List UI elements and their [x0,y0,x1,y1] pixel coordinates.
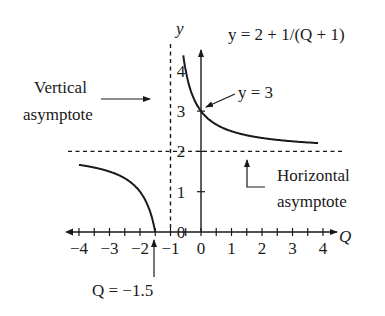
horizontal-asymptote-label: Horizontal [277,166,350,185]
x-axis-label: Q [339,227,351,246]
horizontal-asymptote-label-2: asymptote [277,192,347,211]
y-tick-label: 1 [177,183,186,202]
vertical-asymptote-label-2: asymptote [23,105,93,124]
x-axis-left-arrow-icon [65,229,73,236]
x-tick-label: −3 [100,239,118,258]
x-tick-label: 1 [227,239,236,258]
y-tick-label: 0 [177,223,186,242]
y-tick-label: 2 [177,142,186,161]
x-tick-label: 4 [319,239,328,258]
function-graph: −4−3−2−101234 01234 y Q y = 2 + 1/(Q + 1… [0,0,385,316]
y-axis: 01234 [177,50,205,242]
x-tick-label: 0 [197,239,206,258]
y-tick-label: 3 [177,102,186,121]
y-intercept-label: y = 3 [238,83,273,102]
horizontal-asymptote-pointer [247,160,265,187]
x-tick-label: −2 [131,239,149,258]
x-tick-label: 2 [258,239,267,258]
x-tick-label: 3 [288,239,297,258]
vertical-asymptote-label: Vertical [34,78,87,97]
y-axis-label: y [174,19,184,38]
curve-left-branch [79,165,155,232]
y-intercept-pointer [206,94,235,107]
x-tick-label: −4 [70,239,89,258]
equation-label: y = 2 + 1/(Q + 1) [228,25,345,44]
x-intercept-label: Q = −1.5 [92,281,153,300]
x-axis: −4−3−2−101234 [65,228,337,258]
